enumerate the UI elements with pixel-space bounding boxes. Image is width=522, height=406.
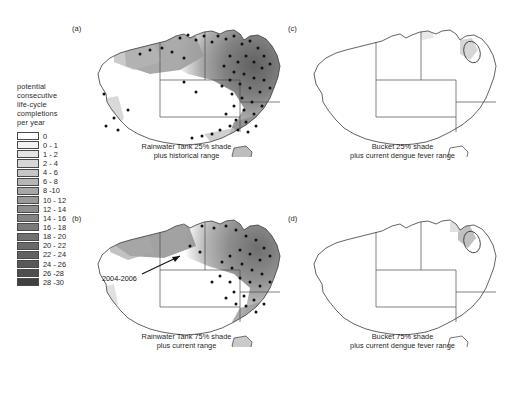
panel-b-label: (b) [72, 214, 81, 223]
legend-swatch [17, 260, 39, 268]
legend-label: 26 -28 [43, 269, 64, 278]
legend-label: 14 - 16 [43, 214, 66, 223]
legend-label: 28 -30 [43, 278, 64, 287]
legend-entry: 6 - 8 [17, 177, 99, 186]
legend-swatch [17, 196, 39, 204]
legend-label: 0 - 1 [43, 141, 58, 150]
map-a-shading [84, 22, 289, 157]
figure-australia-lifecycle-maps: potential consecutive life-cycle complet… [0, 0, 522, 406]
legend-swatch [17, 159, 39, 167]
legend-swatch [17, 187, 39, 195]
legend-label: 6 - 8 [43, 177, 58, 186]
map-c [300, 22, 505, 157]
legend-label: 20 - 22 [43, 241, 66, 250]
legend-swatch [17, 242, 39, 250]
legend-swatch [17, 223, 39, 231]
panel-b: (b) [84, 212, 289, 352]
panel-c-caption: Bucket 25% shade plus current dengue fev… [300, 142, 505, 161]
legend-swatch [17, 132, 39, 140]
legend-label: 22 - 24 [43, 250, 66, 259]
map-a [84, 22, 289, 157]
legend-swatch [17, 205, 39, 213]
legend-entry: 10 - 12 [17, 195, 99, 204]
legend-label: 8 -10 [43, 186, 60, 195]
panel-c: (c) Bucket 25% shade plus current dengue… [300, 22, 505, 162]
legend-label: 16 - 18 [43, 223, 66, 232]
panel-c-label: (c) [288, 24, 297, 33]
panel-a: (a) [84, 22, 289, 162]
legend-entry: 8 -10 [17, 186, 99, 195]
legend-swatch [17, 233, 39, 241]
legend-label: 10 - 12 [43, 196, 66, 205]
panel-d-caption: Bucket 75% shade plus current dengue fev… [300, 332, 505, 351]
legend-entry: 4 - 6 [17, 168, 99, 177]
legend-label: 24 - 26 [43, 260, 66, 269]
legend-label: 12 - 14 [43, 205, 66, 214]
legend-swatch [17, 141, 39, 149]
legend-label: 4 - 6 [43, 168, 58, 177]
legend-swatch [17, 169, 39, 177]
legend-label: 1 - 2 [43, 150, 58, 159]
panel-d: (d) Bucket 75% shade plus current dengue… [300, 212, 505, 352]
map-b-annotation-label: 2004-2006 [102, 274, 137, 283]
legend-label: 18 - 20 [43, 232, 66, 241]
panel-a-label: (a) [72, 24, 81, 33]
panel-d-label: (d) [288, 214, 297, 223]
panel-a-caption: Rainwater Tank 25% shade plus historical… [84, 142, 289, 161]
legend-swatch [17, 178, 39, 186]
legend-swatch [17, 278, 39, 286]
legend-swatch [17, 269, 39, 277]
legend-swatch [17, 150, 39, 158]
legend-swatch [17, 251, 39, 259]
legend-label: 2 - 4 [43, 159, 58, 168]
legend-label: 0 [43, 132, 47, 141]
map-d [300, 212, 505, 347]
panel-b-caption: Rainwater Tank 75% shade plus current ra… [84, 332, 289, 351]
legend-swatch [17, 214, 39, 222]
